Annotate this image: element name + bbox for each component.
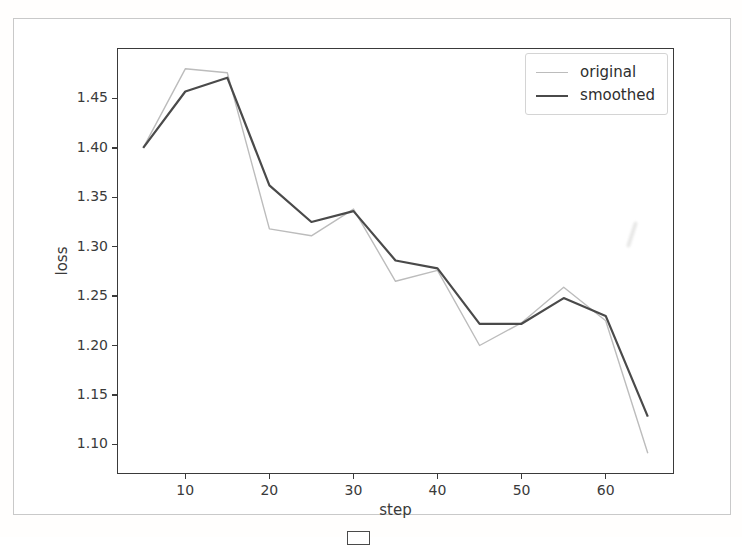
y-tick-mark <box>112 394 117 395</box>
x-tick-mark <box>185 474 186 479</box>
legend-label-smoothed: smoothed <box>580 84 655 107</box>
figure-border: 102030405060 1.451.401.351.301.251.201.1… <box>13 18 731 515</box>
y-tick-mark <box>112 197 117 198</box>
x-tick-label: 20 <box>247 482 291 498</box>
x-axis-label: step <box>118 501 673 519</box>
legend-label-original: original <box>580 61 636 84</box>
x-tick-mark <box>353 474 354 479</box>
x-tick-label: 30 <box>331 482 375 498</box>
original-line-sample-icon <box>536 72 568 73</box>
x-tick-label: 50 <box>500 482 544 498</box>
legend-entry-original: original <box>536 61 655 84</box>
y-tick-mark <box>112 147 117 148</box>
x-tick-mark <box>605 474 606 479</box>
x-tick-mark <box>521 474 522 479</box>
smoothed-series-line <box>143 78 648 417</box>
y-tick-mark <box>112 345 117 346</box>
x-tick-label: 60 <box>584 482 628 498</box>
x-tick-label: 40 <box>416 482 460 498</box>
cropped-bottom-glyph <box>347 531 370 545</box>
x-tick-mark <box>437 474 438 479</box>
plot-area: 102030405060 1.451.401.351.301.251.201.1… <box>117 48 674 474</box>
y-tick-mark <box>112 98 117 99</box>
y-tick-mark <box>112 246 117 247</box>
y-tick-mark <box>112 295 117 296</box>
legend-entry-smoothed: smoothed <box>536 84 655 107</box>
x-tick-label: 10 <box>163 482 207 498</box>
x-tick-mark <box>269 474 270 479</box>
legend: original smoothed <box>525 53 668 115</box>
smoothed-line-sample-icon <box>536 95 568 97</box>
y-tick-mark <box>112 444 117 445</box>
y-axis-label-container: loss <box>52 49 72 473</box>
y-axis-label: loss <box>53 247 71 276</box>
